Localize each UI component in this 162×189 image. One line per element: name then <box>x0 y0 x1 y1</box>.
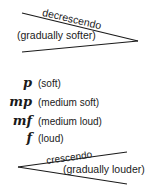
decrescendo-lower-line <box>22 41 138 52</box>
dynamic-meaning-mf: (medium loud) <box>38 116 102 127</box>
crescendo-meaning: (gradually louder) <box>63 163 145 175</box>
dynamic-symbol-mf: mf <box>0 113 32 128</box>
dynamic-meaning-p: (soft) <box>38 78 61 89</box>
dynamic-symbol-p: p <box>0 75 32 90</box>
dynamic-symbol-mp: mp <box>0 94 32 109</box>
dynamic-meaning-mp: (medium soft) <box>38 97 99 108</box>
decrescendo-meaning: (gradually softer) <box>17 29 96 41</box>
dynamic-symbol-f: f <box>0 130 32 145</box>
dynamic-meaning-f: (loud) <box>38 133 64 144</box>
